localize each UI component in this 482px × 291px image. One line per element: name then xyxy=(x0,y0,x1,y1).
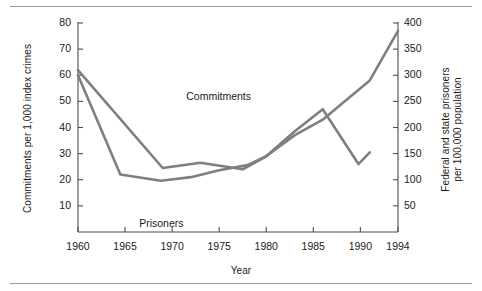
figure-container: Commitments per 1,000 index crimes Feder… xyxy=(0,0,482,291)
y-tick-label-left-40: 40 xyxy=(47,121,71,133)
y-tick-label-left-30: 30 xyxy=(47,147,71,159)
y-axis-label-right-line2: per 100,000 population xyxy=(452,30,463,230)
y-tick-label-right-400: 400 xyxy=(404,16,430,28)
x-tick-label-1985: 1985 xyxy=(293,240,333,252)
series-group xyxy=(78,31,398,181)
x-tick-label-1960: 1960 xyxy=(58,240,98,252)
y-tick-label-right-350: 350 xyxy=(404,42,430,54)
x-tick-label-1965: 1965 xyxy=(105,240,145,252)
y-axis-label-left: Commitments per 1,000 index crimes xyxy=(22,29,33,229)
y-tick-label-right-100: 100 xyxy=(404,173,430,185)
x-tick-label-1994: 1994 xyxy=(378,240,418,252)
y-tick-label-right-150: 150 xyxy=(404,147,430,159)
y-tick-label-right-200: 200 xyxy=(404,121,430,133)
y-tick-label-left-20: 20 xyxy=(47,173,71,185)
x-tick-label-1990: 1990 xyxy=(340,240,380,252)
series-annotation-prisoners: Prisoners xyxy=(139,217,183,229)
series-annotation-commitments: Commitments xyxy=(186,90,251,102)
y-tick-label-right-250: 250 xyxy=(404,94,430,106)
y-tick-label-right-300: 300 xyxy=(404,68,430,80)
x-tick-label-1970: 1970 xyxy=(152,240,192,252)
y-tick-label-left-70: 70 xyxy=(47,42,71,54)
y-tick-label-left-50: 50 xyxy=(47,94,71,106)
y-tick-label-left-60: 60 xyxy=(47,68,71,80)
y-tick-label-left-10: 10 xyxy=(47,199,71,211)
series-line-commitments xyxy=(78,70,370,169)
y-axis-label-right-line1: Federal and state prisoners xyxy=(440,30,451,230)
y-tick-label-left-80: 80 xyxy=(47,16,71,28)
x-tick-label-1980: 1980 xyxy=(246,240,286,252)
x-axis-label: Year xyxy=(0,265,482,276)
series-line-prisoners xyxy=(78,31,398,181)
y-tick-label-right-50: 50 xyxy=(404,199,430,211)
x-tick-label-1975: 1975 xyxy=(199,240,239,252)
